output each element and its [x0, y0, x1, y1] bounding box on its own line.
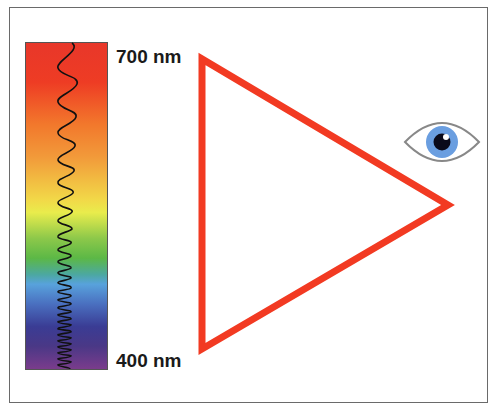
- top-wavelength-label: 700 nm: [116, 46, 181, 68]
- bottom-wavelength-label: 400 nm: [116, 350, 181, 372]
- diagram-graphics: [0, 0, 497, 414]
- wavelength-wave: [58, 43, 78, 369]
- prism-triangle: [202, 59, 448, 349]
- eye-icon: [405, 123, 479, 161]
